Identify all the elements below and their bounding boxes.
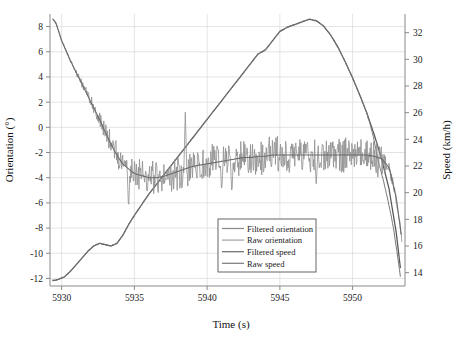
x-axis-title: Time (s) <box>212 318 250 331</box>
y-tick-label-left: 6 <box>38 47 43 57</box>
legend-label-3[interactable]: Raw speed <box>247 259 285 269</box>
chart-figure: 59305935594059455950-12-10-8-6-4-2024681… <box>0 0 462 337</box>
x-tick-label: 5950 <box>343 293 362 303</box>
chart-legend[interactable]: Filtered orientationRaw orientationFilte… <box>218 219 316 272</box>
y-axis-title-left: Orientation (°) <box>3 117 16 182</box>
x-tick-label: 5940 <box>198 293 217 303</box>
y-tick-label-right: 18 <box>413 215 423 225</box>
y-tick-label-left: -2 <box>35 148 43 158</box>
legend-label-1[interactable]: Raw orientation <box>247 235 303 245</box>
y-axis-title-right: Speed (km/h) <box>440 120 453 180</box>
y-tick-label-right: 30 <box>413 55 423 65</box>
y-tick-label-left: -8 <box>35 223 43 233</box>
y-tick-label-right: 14 <box>413 268 423 278</box>
y-tick-label-left: 2 <box>38 98 43 108</box>
y-tick-label-left: 0 <box>38 123 43 133</box>
orientation-speed-line-chart: 59305935594059455950-12-10-8-6-4-2024681… <box>0 0 462 337</box>
y-tick-label-right: 16 <box>413 241 423 251</box>
y-tick-label-left: -10 <box>30 249 43 259</box>
y-tick-label-left: -4 <box>35 173 43 183</box>
legend-label-0[interactable]: Filtered orientation <box>247 224 314 234</box>
y-tick-label-right: 24 <box>413 135 423 145</box>
x-tick-label: 5935 <box>125 293 144 303</box>
y-tick-label-right: 26 <box>413 108 423 118</box>
x-tick-label: 5930 <box>52 293 71 303</box>
y-tick-label-left: -12 <box>30 274 43 284</box>
x-tick-label: 5945 <box>270 293 289 303</box>
y-tick-label-left: 8 <box>38 22 43 32</box>
legend-label-2[interactable]: Filtered speed <box>247 247 296 257</box>
y-tick-label-right: 28 <box>413 81 423 91</box>
y-tick-label-right: 20 <box>413 188 423 198</box>
y-tick-label-left: -6 <box>35 198 43 208</box>
y-tick-label-right: 22 <box>413 161 423 171</box>
y-tick-label-left: 4 <box>38 72 43 82</box>
y-tick-label-right: 32 <box>413 28 423 38</box>
